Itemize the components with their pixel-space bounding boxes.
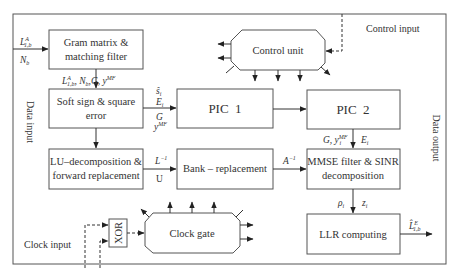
svg-text:PIC 2: PIC 2 <box>336 102 369 117</box>
svg-text:Control unit: Control unit <box>252 45 303 56</box>
clock-gate-block: Clock gate <box>145 213 240 253</box>
xor-gate: XOR <box>109 219 127 247</box>
block-diagram: Data input Data output Control input Clo… <box>0 0 457 278</box>
signal-Ei: Ei <box>360 135 369 146</box>
clock-input-label: Clock input <box>24 239 71 250</box>
svg-text:PIC 1: PIC 1 <box>208 101 241 116</box>
signal-L-inverse: L−1 <box>154 155 167 166</box>
svg-text:LLR computing: LLR computing <box>319 229 387 240</box>
llr-computing-block: LLR computing <box>307 214 400 254</box>
svg-text:decomposition: decomposition <box>322 170 385 181</box>
signal-s-hat: ŝi <box>156 86 162 97</box>
mmse-filter-block: MMSE filter & SINR decomposition <box>307 149 400 189</box>
lu-decomposition-block: LU–decomposition & forward replacement <box>49 149 143 189</box>
svg-text:matching filter: matching filter <box>65 51 128 62</box>
svg-text:error: error <box>86 110 107 121</box>
data-output-label: Data output <box>431 115 442 162</box>
pic2-block: PIC 2 <box>307 90 400 129</box>
svg-text:Soft sign & square: Soft sign & square <box>57 96 136 107</box>
signal-G-yi: G, yMFi <box>323 134 348 146</box>
signal-E: Ei <box>155 97 164 108</box>
signal-U: U <box>156 174 163 184</box>
svg-text:XOR: XOR <box>113 222 124 244</box>
pic1-block: PIC 1 <box>177 89 273 128</box>
signal-A-inverse: A−1 <box>282 155 296 166</box>
svg-text:Gram matrix &: Gram matrix & <box>64 37 129 48</box>
bank-replacement-block: Bank – replacement <box>177 149 273 189</box>
signal-output: L̂E1,b <box>408 219 420 232</box>
svg-text:forward replacement: forward replacement <box>52 170 139 181</box>
signal-input-L: LA1,b <box>19 36 31 48</box>
signal-z: zi <box>361 198 368 209</box>
control-input-line <box>326 14 342 51</box>
data-input-label: Data input <box>25 101 36 143</box>
soft-sign-block: Soft sign & square error <box>49 89 143 128</box>
control-input-label: Control input <box>366 23 420 34</box>
svg-text:MMSE filter & SINR: MMSE filter & SINR <box>307 156 398 167</box>
svg-text:Bank – replacement: Bank – replacement <box>183 163 267 174</box>
signal-rho: ρi <box>337 198 345 209</box>
control-unit-block: Control unit <box>231 30 325 70</box>
signal-yMF: yMF <box>153 121 167 132</box>
svg-text:Clock gate: Clock gate <box>169 228 215 239</box>
svg-text:LU–decomposition &: LU–decomposition & <box>50 156 142 167</box>
gram-matrix-block: Gram matrix & matching filter <box>49 30 143 69</box>
signal-gram-to-softsign: LA1,b, Nb,G, yMF <box>61 75 116 87</box>
signal-input-N: Nb <box>19 55 29 66</box>
